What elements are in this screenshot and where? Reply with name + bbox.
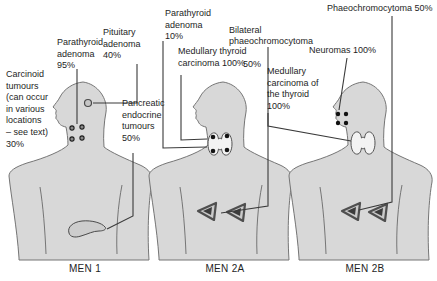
label-bilateral-phaeochromocytoma-text: Bilateral phaeochromocytoma	[229, 25, 313, 48]
label-pituitary-adenoma: Pituitary adenoma 40%	[103, 27, 141, 62]
caption-men2a: MEN 2A	[195, 263, 255, 274]
label-phaeochromocytoma-men2b: Phaeochromocytoma 50%	[327, 3, 433, 15]
label-medullary-carcinoma-of-thyroid: Medullary carcinoma of the thyroid 100%	[267, 66, 319, 112]
label-carcinoid-tumours: Carcinoid tumours (can occur in various …	[6, 69, 48, 150]
label-pancreatic-endocrine-tumours: Pancreatic endocrine tumours 50%	[122, 98, 165, 144]
caption-men1: MEN 1	[55, 263, 115, 274]
pituitary-gland-icon	[85, 100, 92, 107]
men-syndromes-diagram: Carcinoid tumours (can occur in various …	[0, 0, 437, 281]
caption-men2b: MEN 2B	[335, 263, 395, 274]
label-parathyroid-adenoma-men1: Parathyroid adenoma 95%	[57, 37, 103, 72]
label-neuromas: Neuromas 100%	[309, 45, 376, 57]
label-parathyroid-adenoma-men2a: Parathyroid adenoma 10%	[165, 8, 211, 43]
